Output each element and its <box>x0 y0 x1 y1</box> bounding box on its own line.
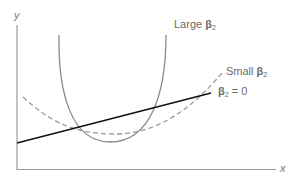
subscript: 2 <box>212 24 216 31</box>
subscript: 2 <box>263 71 267 78</box>
label-text: Large <box>174 18 205 30</box>
label-text: Small <box>226 65 257 77</box>
beta-symbol: β <box>205 18 212 30</box>
subscript: 2 <box>225 91 229 98</box>
large-beta2-label: Large β2 <box>174 19 216 30</box>
x-axis-label: x <box>280 163 286 174</box>
small-beta2-label: Small β2 <box>226 66 267 77</box>
plot-canvas <box>0 0 295 180</box>
y-axis-label: y <box>14 10 20 21</box>
small-beta2-curve <box>23 73 222 134</box>
beta-symbol: β <box>218 85 225 97</box>
large-beta2-curve <box>59 35 166 142</box>
regression-curvature-diagram: y x Large β2 Small β2 β2 = 0 <box>0 0 295 180</box>
zero-beta2-line <box>17 93 211 143</box>
label-text: = 0 <box>229 85 248 97</box>
zero-beta2-label: β2 = 0 <box>218 86 247 97</box>
